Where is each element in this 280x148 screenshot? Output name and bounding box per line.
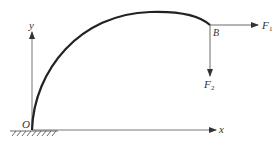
force-1-label: F 1 [261, 19, 273, 33]
origin-label: O [22, 118, 30, 130]
svg-text:F: F [261, 19, 269, 31]
fixed-support-hatch [10, 131, 58, 136]
y-axis-label: y [28, 19, 34, 31]
diagram-canvas: y x O B F 1 F 2 [0, 0, 280, 148]
x-axis-label: x [218, 123, 224, 135]
svg-text:2: 2 [211, 84, 215, 92]
svg-text:1: 1 [269, 25, 273, 33]
curved-beam [32, 12, 210, 130]
svg-text:F: F [203, 78, 211, 90]
force-2-label: F 2 [203, 78, 215, 92]
point-b-label: B [213, 27, 219, 38]
